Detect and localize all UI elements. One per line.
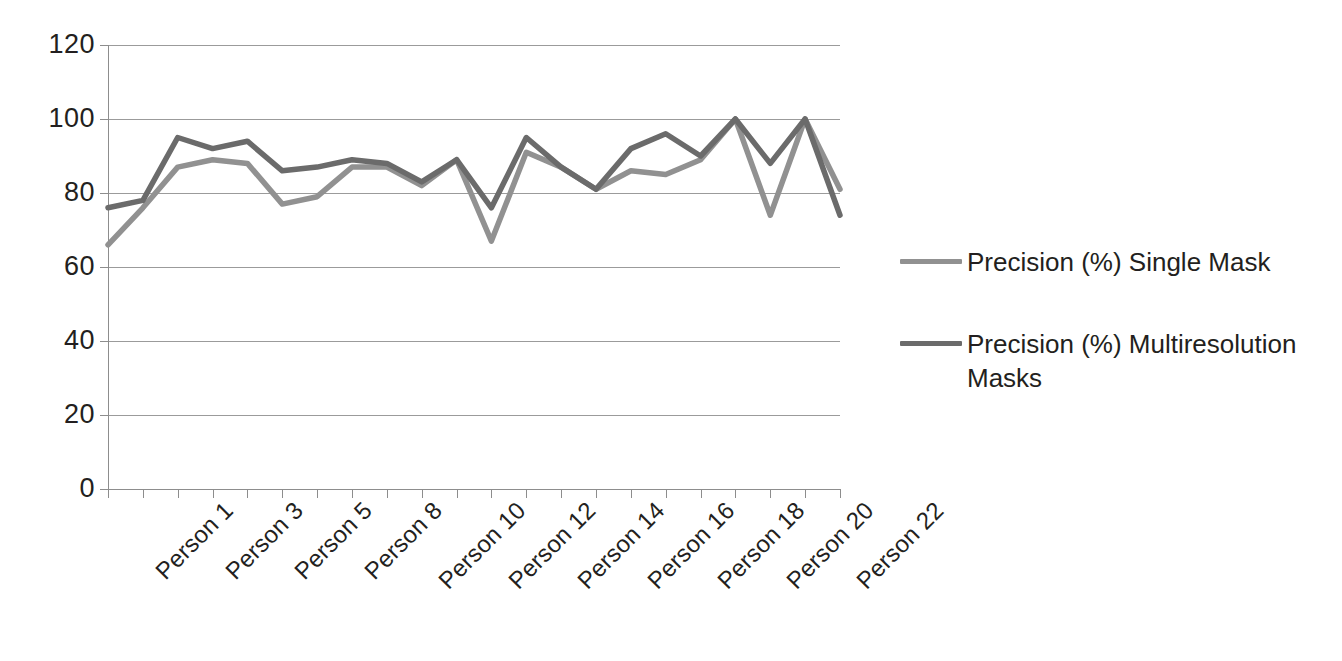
y-axis-tick (100, 415, 108, 416)
line-chart: 120100806040200 Person 1Person 3Person 5… (0, 0, 1342, 661)
y-axis-tick (100, 489, 108, 490)
legend-label-multiresolution-masks: Precision (%) Multiresolution Masks (967, 327, 1307, 395)
y-axis-tick (100, 341, 108, 342)
y-axis-tick (100, 119, 108, 120)
legend-entry-single-mask: Precision (%) Single Mask (900, 245, 1320, 279)
y-axis-tick (100, 193, 108, 194)
legend-entry-multiresolution-masks: Precision (%) Multiresolution Masks (900, 327, 1320, 395)
legend-label-single-mask: Precision (%) Single Mask (967, 245, 1270, 279)
y-axis-tick (100, 267, 108, 268)
legend-swatch-multiresolution-masks (900, 341, 962, 346)
chart-legend: Precision (%) Single Mask Precision (%) … (900, 245, 1320, 443)
legend-swatch-single-mask (900, 259, 962, 264)
y-axis-tick (100, 45, 108, 46)
